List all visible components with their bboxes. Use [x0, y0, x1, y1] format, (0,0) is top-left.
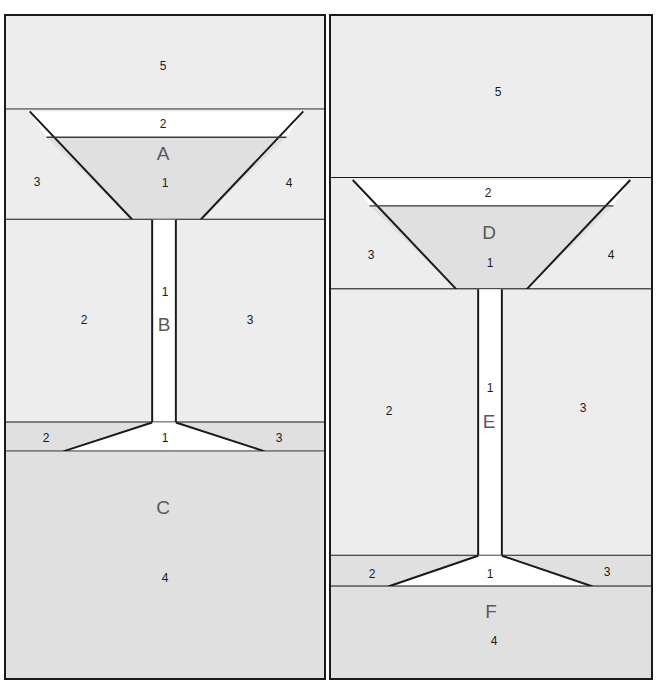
left-column-panel: [4, 14, 326, 680]
left-column-figure: [6, 16, 324, 678]
right-column-figure: [331, 16, 651, 678]
right-column-panel: [329, 14, 653, 680]
diagram-canvas: 5 2 A 3 1 4 1 2 B 3 2 1 3 C 4: [0, 0, 657, 689]
